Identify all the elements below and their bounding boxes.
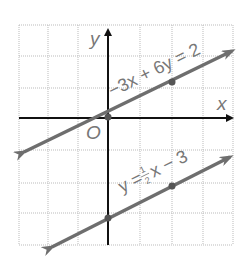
equation-label-1: −3x + 6y = 2 (105, 39, 203, 101)
equation-label-2: y = 1 2 x − 3 (115, 145, 192, 197)
point-icon (169, 79, 176, 86)
x-axis-label: x (216, 93, 228, 114)
point-icon (169, 183, 176, 190)
svg-text:x − 3: x − 3 (146, 146, 190, 181)
point-icon (105, 114, 112, 121)
point-icon (105, 215, 112, 222)
coordinate-graph: y x O −3x + 6y = 2 y = 1 2 x − 3 (0, 0, 247, 262)
line-1 (24, 51, 232, 152)
origin-label: O (86, 122, 101, 143)
y-axis-label: y (88, 28, 101, 49)
